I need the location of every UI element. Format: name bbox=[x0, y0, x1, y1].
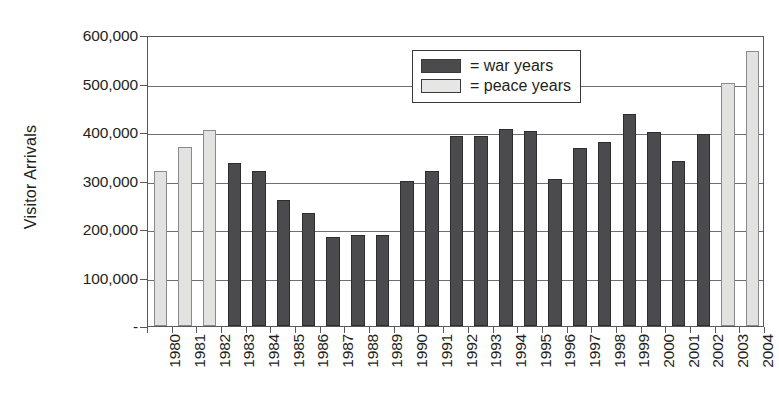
x-axis-tick bbox=[394, 327, 395, 333]
bar-1980 bbox=[154, 171, 168, 326]
x-axis-tick-label-2004: 2004 bbox=[759, 334, 777, 396]
y-axis-tick bbox=[140, 279, 147, 280]
bar-1983 bbox=[228, 163, 242, 326]
bar-1987 bbox=[326, 237, 340, 326]
y-axis-tick-label: 400,000 bbox=[38, 124, 138, 142]
legend-swatch-peace-icon bbox=[421, 79, 461, 93]
x-axis-tick-label-2002: 2002 bbox=[709, 334, 727, 396]
x-axis-tick-label-1995: 1995 bbox=[537, 334, 555, 396]
y-axis-tick-label: 600,000 bbox=[38, 27, 138, 45]
bar-2004 bbox=[746, 51, 760, 326]
bar-1995 bbox=[524, 131, 538, 326]
x-axis-tick bbox=[295, 327, 296, 333]
bar-2002 bbox=[697, 134, 711, 326]
x-axis-tick-label-1989: 1989 bbox=[388, 334, 406, 396]
x-axis-tick-label-1987: 1987 bbox=[339, 334, 357, 396]
bar-1985 bbox=[277, 200, 291, 326]
x-axis-tick bbox=[739, 327, 740, 333]
x-axis-tick-label-2001: 2001 bbox=[685, 334, 703, 396]
x-axis-tick bbox=[270, 327, 271, 333]
x-axis-tick bbox=[443, 327, 444, 333]
bar-1984 bbox=[252, 171, 266, 326]
x-axis-tick bbox=[493, 327, 494, 333]
x-axis-tick bbox=[641, 327, 642, 333]
y-axis-tick bbox=[140, 230, 147, 231]
x-axis-tick bbox=[418, 327, 419, 333]
x-axis-tick bbox=[320, 327, 321, 333]
bar-1988 bbox=[351, 235, 365, 326]
x-axis-tick bbox=[665, 327, 666, 333]
x-axis-tick-label-1990: 1990 bbox=[413, 334, 431, 396]
x-axis-tick-label-1980: 1980 bbox=[166, 334, 184, 396]
legend-swatch-war-icon bbox=[421, 59, 461, 73]
x-axis-tick-label-1984: 1984 bbox=[265, 334, 283, 396]
bar-1982 bbox=[203, 130, 217, 326]
x-axis-tick bbox=[690, 327, 691, 333]
legend-item-war: = war years bbox=[421, 56, 571, 76]
x-axis-tick-label-1988: 1988 bbox=[364, 334, 382, 396]
x-axis-tick-label-1983: 1983 bbox=[240, 334, 258, 396]
bar-1998 bbox=[598, 142, 612, 326]
x-axis-tick bbox=[369, 327, 370, 333]
bar-1994 bbox=[499, 129, 513, 326]
x-axis-tick-label-2000: 2000 bbox=[660, 334, 678, 396]
legend-label-peace: = peace years bbox=[470, 77, 571, 95]
x-axis-tick-label-1986: 1986 bbox=[314, 334, 332, 396]
bar-2000 bbox=[647, 132, 661, 326]
y-axis-tick-label: 100,000 bbox=[38, 270, 138, 288]
x-axis-tick bbox=[468, 327, 469, 333]
x-axis-tick bbox=[591, 327, 592, 333]
x-axis-tick bbox=[246, 327, 247, 333]
x-axis-tick-label-1985: 1985 bbox=[290, 334, 308, 396]
x-axis-tick bbox=[344, 327, 345, 333]
y-axis-tick bbox=[140, 327, 147, 328]
y-axis-tick-label: - bbox=[38, 318, 138, 336]
x-axis-tick-labels: 1980198119821983198419851986198719881989… bbox=[147, 334, 764, 404]
x-axis-tick bbox=[196, 327, 197, 333]
x-axis-tick-label-1991: 1991 bbox=[438, 334, 456, 396]
x-axis-tick-label-1997: 1997 bbox=[586, 334, 604, 396]
legend-label-war: = war years bbox=[470, 57, 553, 75]
bar-1986 bbox=[302, 213, 316, 326]
x-axis-tick-label-1998: 1998 bbox=[611, 334, 629, 396]
x-axis-tick bbox=[147, 327, 148, 333]
x-axis-tick bbox=[616, 327, 617, 333]
bar-1992 bbox=[450, 136, 464, 326]
x-axis-tick bbox=[172, 327, 173, 333]
x-axis-tick bbox=[542, 327, 543, 333]
bar-chart: Visitor Arrivals 600,000500,000400,00030… bbox=[0, 0, 779, 407]
x-axis-tick bbox=[221, 327, 222, 333]
x-axis-tick bbox=[517, 327, 518, 333]
y-axis-tick bbox=[140, 133, 147, 134]
bar-1993 bbox=[474, 136, 488, 326]
legend: = war years = peace years bbox=[412, 50, 581, 103]
x-axis-tick-label-1992: 1992 bbox=[463, 334, 481, 396]
y-axis-tick-label: 200,000 bbox=[38, 221, 138, 239]
bar-1999 bbox=[623, 114, 637, 326]
x-axis-tick-label-1996: 1996 bbox=[561, 334, 579, 396]
bar-2003 bbox=[721, 83, 735, 326]
y-axis-tick bbox=[140, 36, 147, 37]
y-axis-tick bbox=[140, 182, 147, 183]
x-axis-tick-label-1981: 1981 bbox=[191, 334, 209, 396]
x-axis-tick-label-1994: 1994 bbox=[512, 334, 530, 396]
x-axis-tick-label-2003: 2003 bbox=[734, 334, 752, 396]
bar-1996 bbox=[548, 179, 562, 326]
y-axis-tick bbox=[140, 85, 147, 86]
x-axis-tick bbox=[715, 327, 716, 333]
legend-item-peace: = peace years bbox=[421, 76, 571, 96]
bar-1981 bbox=[178, 147, 192, 326]
bar-1989 bbox=[376, 235, 390, 326]
x-axis-tick-label-1993: 1993 bbox=[487, 334, 505, 396]
y-axis-tick-label: 500,000 bbox=[38, 76, 138, 94]
bar-1997 bbox=[573, 148, 587, 326]
x-axis-ticks bbox=[147, 327, 764, 334]
x-axis-tick-label-1982: 1982 bbox=[216, 334, 234, 396]
bar-1991 bbox=[425, 171, 439, 326]
y-axis-tick-label: 300,000 bbox=[38, 173, 138, 191]
x-axis-tick bbox=[567, 327, 568, 333]
x-axis-tick bbox=[764, 327, 765, 333]
y-axis-tick-labels: 600,000500,000400,000300,000200,000100,0… bbox=[38, 0, 138, 407]
x-axis-tick-label-1999: 1999 bbox=[635, 334, 653, 396]
bar-1990 bbox=[400, 181, 414, 327]
